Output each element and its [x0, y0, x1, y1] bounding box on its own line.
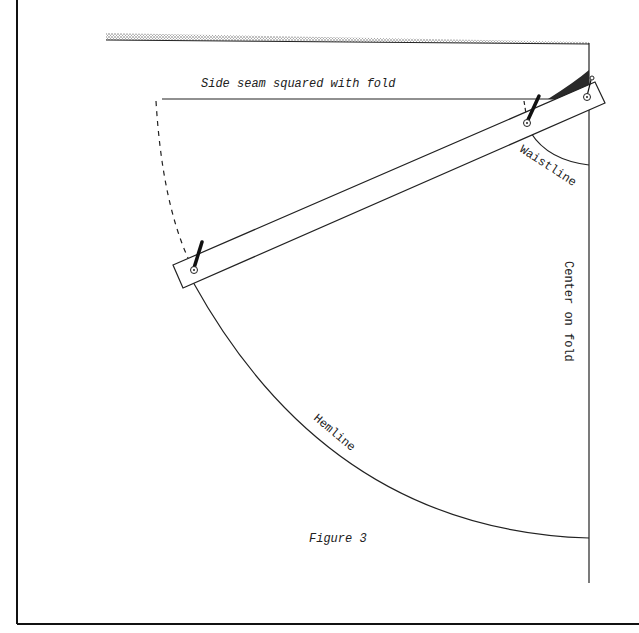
- measuring-ruler: [173, 82, 605, 288]
- figure-caption: Figure 3: [309, 532, 367, 546]
- pattern-diagram: Side seam squared with fold Waistline Ce…: [0, 0, 639, 633]
- center-fold-label: Center on fold: [561, 261, 575, 362]
- hemline-label: Hemline: [310, 411, 358, 454]
- hemline-arc: [193, 282, 589, 538]
- dashed-hem-guide: [156, 101, 188, 258]
- waistline-label: Waistline: [517, 143, 579, 190]
- side-seam-label: Side seam squared with fold: [201, 77, 396, 91]
